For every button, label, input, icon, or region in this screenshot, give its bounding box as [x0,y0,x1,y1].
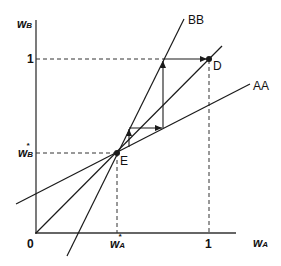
bb-label: BB [188,14,204,26]
aa-label: AA [253,80,269,92]
y-axis-label: wB [17,18,32,32]
y-label-main: w [17,17,26,31]
x-tick-one: 1 [205,238,212,250]
x-label-main: w [253,236,262,250]
bb-line [67,19,184,256]
aa-line [16,84,250,204]
y-tick-one: 1 [27,53,34,65]
e-label: E [120,155,128,167]
wb-star-label: wB* [18,147,36,161]
d-label: D [213,60,222,72]
point-d [206,56,212,62]
diagram: wB wA 1 1 0 wB* wA* BB AA D E [0,0,281,266]
wa-star-sub: A [119,241,125,250]
x-axis-label: wA [253,237,268,251]
wb-star-sub: B [27,150,33,159]
wa-star-sup: * [118,232,121,241]
y-label-sub: B [26,21,32,30]
origin-label: 0 [27,238,34,250]
diagram-canvas [0,0,281,266]
wa-star-label: wA* [110,238,128,252]
x-label-sub: A [262,240,268,249]
wb-star-sup: * [26,141,29,150]
